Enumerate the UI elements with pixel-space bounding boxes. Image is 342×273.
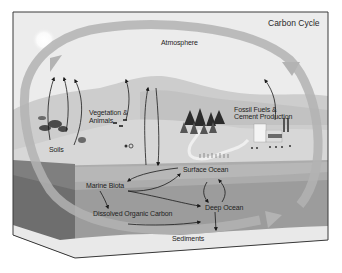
label-sediments: Sediments: [172, 235, 204, 243]
diagram-title: Carbon Cycle: [268, 18, 320, 28]
carbon-cycle-diagram: Carbon Cycle Atmosphere Vegetation & Ani…: [0, 0, 342, 273]
label-surface-ocean: Surface Ocean: [183, 166, 228, 174]
label-vegetation-line2: Animals: [89, 117, 113, 125]
label-vegetation-line1: Vegetation &: [89, 109, 128, 117]
label-soils: Soils: [49, 146, 64, 154]
label-dissolved-organic-carbon: Dissolved Organic Carbon: [93, 210, 172, 218]
label-marine-biota: Marine Biota: [86, 182, 124, 190]
label-fossil-line2: Cement Production: [234, 113, 292, 121]
label-deep-ocean: Deep Ocean: [205, 204, 243, 212]
label-atmosphere: Atmosphere: [161, 39, 198, 47]
